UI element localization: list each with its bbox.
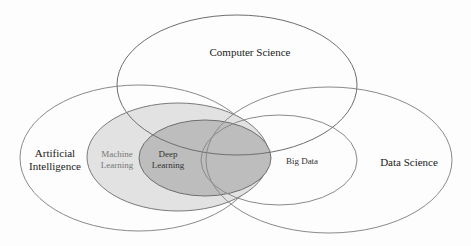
label-big-data: Big Data	[286, 156, 318, 166]
label-data-science: Data Science	[380, 156, 438, 168]
label-machine-learning-line1: Machine	[101, 149, 133, 159]
venn-svg: Computer Science Artificial Intelligence…	[0, 0, 471, 246]
label-artificial-intelligence-line1: Artificial	[35, 147, 75, 159]
label-artificial-intelligence-line2: Intelligence	[29, 160, 81, 172]
venn-diagram: Computer Science Artificial Intelligence…	[0, 0, 471, 246]
label-deep-learning-line2: Learning	[152, 160, 185, 170]
label-computer-science: Computer Science	[210, 46, 291, 58]
label-machine-learning-line2: Learning	[101, 160, 134, 170]
label-deep-learning-line1: Deep	[159, 149, 178, 159]
